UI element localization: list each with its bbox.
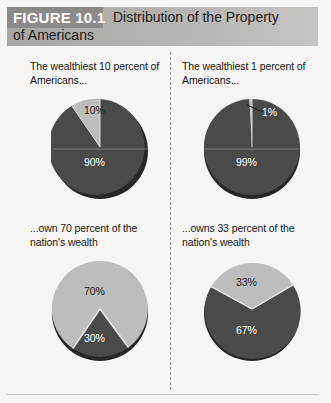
panel-divider (170, 52, 171, 390)
figure-bottom-rule (7, 394, 318, 395)
pie-label-bottom-left-large: 70% (84, 285, 105, 297)
pie-bottom-left-svg (51, 258, 149, 360)
pie-label-top-right-large: 99% (236, 156, 257, 168)
pie-label-top-left-small: 10% (84, 104, 105, 116)
caption-top-left: The wealthiest 10 percent of Americans..… (30, 60, 165, 87)
caption-bottom-left: ...own 70 percent of the nation's wealth (30, 222, 170, 249)
figure-title-line-2: of Americans (13, 26, 94, 45)
figure-number-label: FIGURE 10.1 (13, 8, 105, 27)
pie-label-top-right-small: 1% (262, 106, 277, 118)
pie-chart-top-right: 1% 99% (203, 96, 301, 202)
caption-bottom-right: ...owns 33 percent of the nation's wealt… (182, 222, 324, 249)
pie-chart-bottom-left: 70% 30% (51, 258, 149, 364)
figure-title-line-1: Distribution of the Property (113, 8, 279, 27)
pie-bottom-right-svg (203, 258, 301, 360)
pie-label-bottom-left-small: 30% (84, 332, 105, 344)
pie-label-top-left-large: 90% (84, 156, 105, 168)
pie-label-bottom-right-small: 33% (236, 276, 257, 288)
pie-chart-bottom-right: 33% 67% (203, 258, 301, 364)
figure-container: FIGURE 10.1 Distribution of the Property… (0, 0, 331, 403)
pie-top-right-svg (203, 96, 301, 198)
caption-top-right: The wealthiest 1 percent of Americans... (182, 60, 322, 87)
pie-chart-top-left: 10% 90% (51, 96, 149, 202)
pie-label-bottom-right-large: 67% (236, 324, 257, 336)
